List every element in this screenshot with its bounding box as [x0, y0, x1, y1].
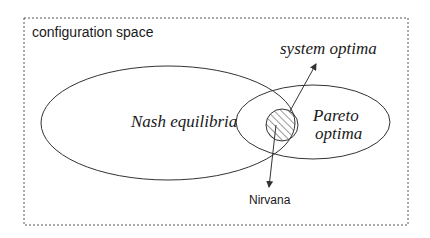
diagram-canvas: configuration space Nash equilibria syst… [0, 0, 430, 238]
nash-equilibria-label: Nash equilibria [131, 113, 237, 130]
configuration-space-label: configuration space [32, 25, 153, 39]
pareto-label-line2: optima [315, 125, 362, 142]
pareto-label-line1: Pareto [313, 107, 359, 124]
system-optima-label: system optima [280, 40, 377, 57]
system-optima-arrow [290, 64, 316, 111]
nirvana-label: Nirvana [249, 194, 290, 206]
